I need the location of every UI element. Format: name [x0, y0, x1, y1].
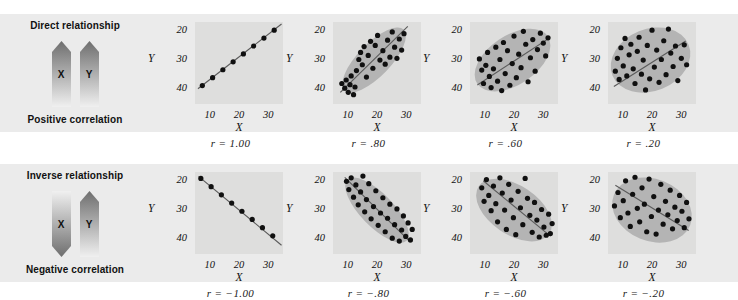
x-tick-label: 10 [336, 109, 360, 120]
scatter-panel [608, 22, 696, 104]
x-tick-label: 20 [227, 109, 251, 120]
legend-negative: Inverse relationship X [0, 164, 150, 282]
x-tick-label: 20 [640, 259, 664, 270]
x-tick-label: 30 [394, 109, 418, 120]
y-tick-label: 20 [161, 24, 187, 35]
arrow-x-negative: X [52, 191, 71, 257]
y-axis-label: Y [286, 52, 292, 64]
arrow-y-positive-letter: Y [80, 69, 99, 80]
legend-arrows-positive: X Y [0, 41, 150, 107]
scatter-panel [333, 22, 421, 104]
y-tick-label: 30 [299, 203, 325, 214]
y-tick-label: 30 [161, 53, 187, 64]
x-tick-label: 30 [531, 109, 555, 120]
arrow-x-positive-letter: X [52, 69, 71, 80]
x-tick-label: 20 [365, 109, 389, 120]
x-axis-label: X [227, 121, 251, 133]
correlation-caption: r = .60 [438, 137, 573, 149]
y-tick-label: 20 [436, 24, 462, 35]
y-tick-label: 20 [161, 174, 187, 185]
x-axis-label: X [365, 271, 389, 283]
y-axis-label: Y [148, 52, 154, 64]
x-tick-label: 20 [365, 259, 389, 270]
y-tick-label: 40 [574, 232, 600, 243]
arrow-y-negative-letter: Y [80, 219, 99, 230]
y-tick-label: 20 [436, 174, 462, 185]
legend-arrows-negative: X Y [0, 191, 150, 257]
x-tick-label: 20 [502, 109, 526, 120]
x-tick-label: 10 [198, 259, 222, 270]
scatter-panel [608, 172, 696, 254]
scatter-panel [470, 22, 558, 104]
y-tick-label: 20 [299, 174, 325, 185]
x-tick-label: 10 [473, 109, 497, 120]
correlation-caption: r = −.60 [438, 287, 573, 299]
correlation-caption: r = −.80 [301, 287, 436, 299]
x-tick-label: 30 [669, 259, 693, 270]
y-tick-label: 40 [436, 232, 462, 243]
x-tick-label: 20 [502, 259, 526, 270]
x-axis-label: X [227, 271, 251, 283]
y-tick-label: 20 [574, 24, 600, 35]
x-axis-label: X [502, 121, 526, 133]
y-tick-label: 40 [436, 82, 462, 93]
arrow-y-negative: Y [80, 191, 99, 257]
x-tick-label: 30 [531, 259, 555, 270]
y-tick-label: 40 [299, 232, 325, 243]
y-tick-label: 30 [299, 53, 325, 64]
y-tick-label: 40 [161, 82, 187, 93]
x-axis-label: X [365, 121, 389, 133]
correlation-caption: r = −.20 [576, 287, 711, 299]
x-tick-label: 10 [611, 109, 635, 120]
y-axis-label: Y [423, 202, 429, 214]
x-tick-label: 10 [336, 259, 360, 270]
y-tick-label: 30 [436, 203, 462, 214]
y-axis-label: Y [561, 52, 567, 64]
arrow-x-negative-letter: X [52, 219, 71, 230]
legend-title-negative: Inverse relationship [0, 170, 150, 181]
y-tick-label: 30 [161, 203, 187, 214]
legend-footer-positive: Positive correlation [0, 114, 150, 125]
y-tick-label: 40 [299, 82, 325, 93]
correlation-caption: r = −1.00 [163, 287, 298, 299]
x-tick-label: 30 [256, 259, 280, 270]
scatter-panel [333, 172, 421, 254]
x-tick-label: 20 [640, 109, 664, 120]
y-tick-label: 40 [161, 232, 187, 243]
scatter-panel [470, 172, 558, 254]
y-axis-label: Y [148, 202, 154, 214]
x-tick-label: 10 [611, 259, 635, 270]
x-tick-label: 30 [394, 259, 418, 270]
correlation-caption: r = .80 [301, 137, 436, 149]
y-tick-label: 30 [574, 53, 600, 64]
x-tick-label: 30 [669, 109, 693, 120]
legend-title-positive: Direct relationship [0, 20, 150, 31]
y-axis-label: Y [561, 202, 567, 214]
arrow-y-positive: Y [80, 41, 99, 107]
legend-positive: Direct relationship X [0, 14, 150, 132]
y-axis-label: Y [423, 52, 429, 64]
y-axis-label: Y [286, 202, 292, 214]
correlation-caption: r = .20 [576, 137, 711, 149]
y-tick-label: 40 [574, 82, 600, 93]
y-tick-label: 30 [436, 53, 462, 64]
arrow-x-positive: X [52, 41, 71, 107]
scatter-panel [195, 22, 283, 104]
x-axis-label: X [640, 121, 664, 133]
x-tick-label: 20 [227, 259, 251, 270]
x-tick-label: 10 [198, 109, 222, 120]
x-axis-label: X [502, 271, 526, 283]
y-tick-label: 20 [299, 24, 325, 35]
scatter-panel [195, 172, 283, 254]
x-tick-label: 30 [256, 109, 280, 120]
y-tick-label: 20 [574, 174, 600, 185]
x-tick-label: 10 [473, 259, 497, 270]
y-tick-label: 30 [574, 203, 600, 214]
correlation-caption: r = 1.00 [163, 137, 298, 149]
legend-footer-negative: Negative correlation [0, 264, 150, 275]
x-axis-label: X [640, 271, 664, 283]
